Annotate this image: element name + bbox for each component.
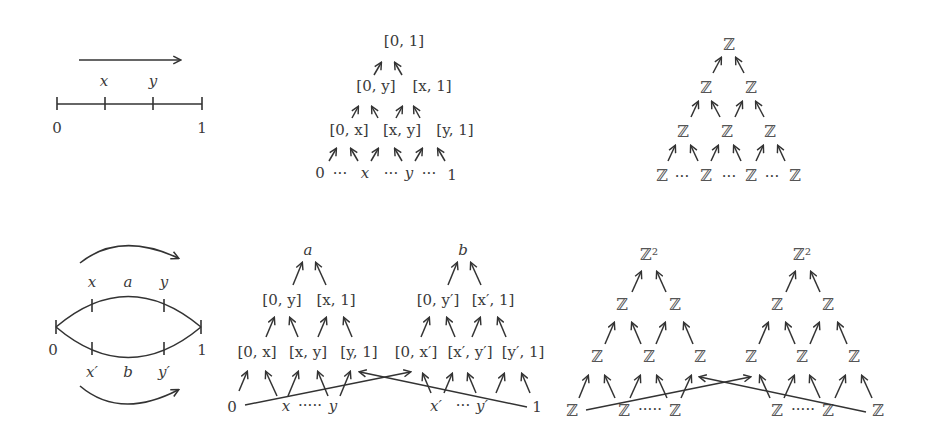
z-node: ℤ: [796, 347, 808, 366]
node-x-y: [x, y]: [289, 343, 327, 361]
dots: ···: [675, 167, 689, 185]
z-node: ℤ: [721, 122, 733, 141]
z-node: ℤ: [745, 347, 757, 366]
point-y: y: [404, 164, 414, 182]
node-x-1: [x, 1]: [316, 291, 355, 309]
circle-diagram: x a y 0 1 x′ b y′: [48, 246, 207, 404]
z-node: ℤ: [764, 122, 776, 141]
point-y-prime: y′: [475, 397, 488, 415]
point-x: x: [282, 397, 291, 415]
dots: ·····: [298, 396, 322, 414]
z-node: ℤ: [872, 401, 884, 420]
z2-node: ℤ²: [640, 245, 658, 264]
label-a: a: [124, 273, 133, 291]
point-0: 0: [315, 164, 325, 182]
figure-canvas: x y 0 1 [0, 1] [0, y] [x, 1] [0, x] [x, …: [0, 0, 927, 430]
z-node: ℤ: [677, 122, 689, 141]
dots: ···: [384, 164, 398, 182]
node-0-yp: [0, y′]: [417, 291, 460, 309]
node-y-1: [y, 1]: [436, 121, 473, 139]
node-xp-yp: [x′, y′]: [448, 343, 493, 361]
z-node: ℤ: [591, 347, 603, 366]
z-node: ℤ: [694, 347, 706, 366]
z-node: ℤ: [700, 166, 712, 185]
dots: ···: [765, 167, 779, 185]
label-y-prime: y′: [157, 363, 170, 381]
z-node: ℤ: [616, 295, 628, 314]
node-xp-1: [x′, 1]: [472, 291, 515, 309]
dots: ···: [422, 164, 436, 182]
z-node: ℤ: [745, 78, 757, 97]
point-1: 1: [447, 166, 457, 184]
label-x: x: [88, 273, 97, 291]
z-node: ℤ: [848, 347, 860, 366]
label-x: x: [100, 72, 109, 90]
z-node: ℤ: [789, 166, 801, 185]
node-0-1: [0, 1]: [384, 32, 424, 50]
label-x-prime: x′: [86, 363, 98, 381]
interval-poset-diagram: [0, 1] [0, y] [x, 1] [0, x] [x, y] [y, 1…: [315, 32, 473, 184]
point-1: 1: [532, 398, 542, 416]
z-node: ℤ: [771, 295, 783, 314]
dots: ···: [456, 396, 470, 414]
map-arrows: [668, 58, 785, 161]
dots: ·····: [638, 400, 662, 418]
dots: ·····: [791, 400, 815, 418]
label-y: y: [148, 72, 158, 90]
z-node: ℤ: [723, 35, 735, 54]
z-node: ℤ: [669, 401, 681, 420]
point-x-prime: x′: [430, 397, 442, 415]
node-x-y: [x, y]: [383, 121, 421, 139]
node-a: a: [304, 241, 313, 259]
node-0-y: [0, y]: [262, 291, 301, 309]
z-node: ℤ: [822, 295, 834, 314]
label-zero: 0: [48, 341, 58, 359]
z-node: ℤ: [745, 166, 757, 185]
z-node: ℤ: [700, 78, 712, 97]
label-one: 1: [197, 341, 207, 359]
label-one: 1: [197, 119, 207, 137]
upper-arc: [56, 297, 201, 328]
map-arrows: [579, 272, 872, 412]
circle-homology-diagram: ℤ² ℤ ℤ ℤ ℤ ℤ ℤ ℤ ····· ℤ ℤ² ℤ ℤ ℤ ℤ ℤ ℤ …: [566, 245, 884, 420]
point-x: x: [361, 164, 370, 182]
node-x-1: [x, 1]: [412, 77, 451, 95]
circle-poset-diagram: a [0, y] [x, 1] [0, x] [x, y] [y, 1] 0 x…: [227, 241, 544, 416]
node-0-x: [0, x]: [329, 121, 368, 139]
dots: ···: [722, 167, 736, 185]
homology-diagram: ℤ ℤ ℤ ℤ ℤ ℤ ℤ ··· ℤ ··· ℤ ··· ℤ: [656, 35, 801, 185]
z-node: ℤ: [566, 401, 578, 420]
upper-direction-arrow-icon: [80, 246, 178, 263]
lower-arc: [56, 327, 201, 358]
point-0: 0: [227, 398, 237, 416]
node-0-xp: [0, x′]: [395, 343, 438, 361]
z-node: ℤ: [656, 166, 668, 185]
lower-direction-arrow-icon: [80, 386, 178, 404]
node-y-1: [y, 1]: [340, 343, 377, 361]
label-zero: 0: [52, 119, 62, 137]
z-node: ℤ: [771, 401, 783, 420]
dots: ···: [333, 164, 347, 182]
label-b: b: [123, 363, 133, 381]
label-y: y: [159, 273, 169, 291]
node-b: b: [458, 241, 468, 259]
interval-diagram: x y 0 1: [52, 60, 207, 137]
node-0-x: [0, x]: [237, 343, 276, 361]
z2-node: ℤ²: [793, 245, 811, 264]
inclusion-arrows: [239, 263, 530, 407]
z-node: ℤ: [669, 295, 681, 314]
point-y: y: [328, 397, 338, 415]
z-node: ℤ: [643, 347, 655, 366]
node-0-y: [0, y]: [356, 77, 395, 95]
node-yp-1: [y′, 1]: [502, 343, 545, 361]
